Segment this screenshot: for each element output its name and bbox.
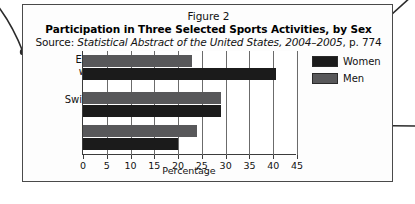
x-axis-tick bbox=[178, 155, 179, 159]
plot-wrapper: Exercise walking Swimming Bicycle riding… bbox=[23, 5, 394, 183]
legend-label-women: Women bbox=[343, 56, 381, 67]
legend-item-women: Women bbox=[312, 54, 381, 68]
gridline bbox=[249, 51, 250, 155]
bar-men-bicycle-riding bbox=[83, 125, 197, 137]
x-axis-tick bbox=[131, 155, 132, 159]
x-axis-tick bbox=[297, 155, 298, 159]
x-axis-tick bbox=[249, 155, 250, 159]
plot-area: 051015202530354045 bbox=[82, 51, 296, 155]
bar-women-swimming bbox=[83, 105, 221, 117]
x-axis-title: Percentage bbox=[82, 165, 296, 176]
x-axis-tick bbox=[107, 155, 108, 159]
x-axis-tick bbox=[273, 155, 274, 159]
bar-women-exercise-walking bbox=[83, 68, 276, 80]
bar-men-swimming bbox=[83, 92, 221, 104]
legend-item-men: Men bbox=[312, 71, 381, 85]
bar-men-exercise-walking bbox=[83, 55, 192, 67]
gridline bbox=[297, 51, 298, 155]
legend-label-men: Men bbox=[343, 73, 364, 84]
legend: Women Men bbox=[312, 54, 381, 88]
x-axis-tick bbox=[154, 155, 155, 159]
bar-women-bicycle-riding bbox=[83, 138, 178, 150]
x-axis-tick bbox=[83, 155, 84, 159]
legend-swatch-women-icon bbox=[312, 56, 338, 67]
figure-container: Figure 2 Participation in Three Selected… bbox=[22, 4, 393, 182]
figure-screenshot: Figure 2 Participation in Three Selected… bbox=[0, 0, 415, 204]
gridline bbox=[273, 51, 274, 155]
legend-swatch-men-icon bbox=[312, 73, 338, 84]
x-axis-tick bbox=[202, 155, 203, 159]
gridline bbox=[226, 51, 227, 155]
x-axis-tick bbox=[226, 155, 227, 159]
